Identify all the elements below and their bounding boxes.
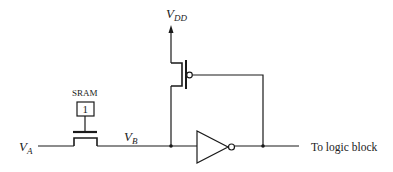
inverter-triangle: [197, 131, 228, 163]
label-va: VA: [19, 139, 33, 156]
label-output: To logic block: [311, 141, 378, 154]
label-vb: VB: [124, 129, 138, 146]
sram-value: 1: [83, 103, 89, 115]
circuit-diagram: VA VB VDD SRAM 1 To logic block: [0, 0, 393, 172]
label-sram: SRAM: [72, 88, 98, 98]
junction-dot-out: [261, 144, 265, 148]
pmos-gate-bubble: [187, 72, 193, 78]
inverter-bubble: [229, 144, 235, 150]
vdd-arrow-icon: [169, 25, 174, 33]
feedback-wire: [193, 75, 264, 146]
pass-transistor-channel: [74, 138, 97, 146]
junction-dot-b: [169, 144, 173, 148]
pmos-channel: [171, 63, 182, 86]
label-vdd: VDD: [166, 6, 187, 23]
